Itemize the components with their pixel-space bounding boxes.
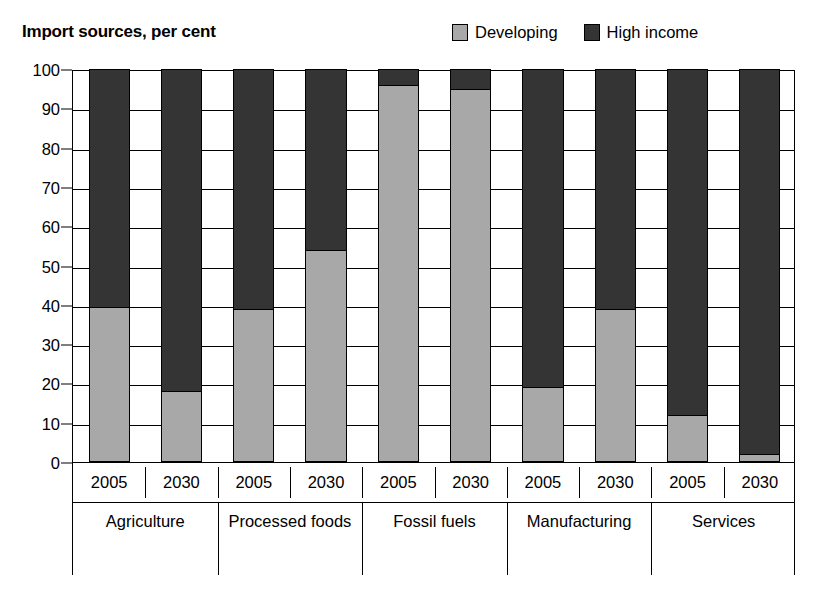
x-axis-year-cell: 2005	[507, 463, 579, 502]
y-axis-tick-label: 20	[42, 375, 60, 394]
y-axis-tick-label: 50	[42, 257, 60, 276]
x-axis-year-label: 2005	[669, 473, 706, 492]
cell-divider	[579, 467, 580, 498]
y-axis-tick-mark	[61, 187, 72, 188]
x-axis-year-cell: 2005	[73, 463, 145, 502]
bar-segment[interactable]	[378, 69, 419, 85]
y-axis-tick-label: 40	[42, 296, 60, 315]
stacked-bar[interactable]	[378, 69, 418, 462]
x-axis-year-label: 2030	[452, 473, 489, 492]
stacked-bar[interactable]	[451, 69, 491, 462]
y-axis-tick-mark	[61, 345, 72, 346]
bar-segment[interactable]	[522, 387, 563, 462]
legend-label: High income	[607, 23, 699, 42]
bar-segment[interactable]	[450, 69, 491, 89]
stacked-bar[interactable]	[89, 69, 129, 462]
x-axis-year-cell: 2005	[218, 463, 290, 502]
y-axis-tick-mark	[61, 70, 72, 71]
cell-divider	[218, 503, 219, 575]
bar-segment[interactable]	[233, 309, 274, 462]
x-axis-year-label: 2005	[525, 473, 562, 492]
x-axis-group-cell: Manufacturing	[507, 503, 652, 575]
developing-swatch	[452, 24, 468, 41]
y-axis-tick-label: 100	[32, 61, 60, 80]
bar-segment[interactable]	[161, 69, 202, 391]
stacked-bar[interactable]	[161, 69, 201, 462]
y-axis-tick-mark	[61, 384, 72, 385]
x-axis-year-label: 2030	[597, 473, 634, 492]
stacked-bar[interactable]	[306, 69, 346, 462]
legend-item[interactable]: Developing	[452, 23, 558, 42]
x-axis-group-label: Agriculture	[106, 511, 185, 533]
x-axis-year-cell: 2005	[651, 463, 723, 502]
y-axis-tick-mark	[61, 463, 72, 464]
y-axis-tick-label: 10	[42, 414, 60, 433]
cell-divider	[290, 467, 291, 498]
y-axis-tick-label: 90	[42, 100, 60, 119]
y-axis-tick-mark	[61, 266, 72, 267]
stacked-bar[interactable]	[234, 69, 274, 462]
bar-series	[73, 71, 794, 462]
x-axis-year-label: 2005	[91, 473, 128, 492]
y-axis-tick-mark	[61, 148, 72, 149]
legend-item[interactable]: High income	[584, 23, 699, 42]
x-axis-year-label: 2030	[163, 473, 200, 492]
bar-segment[interactable]	[595, 69, 636, 309]
stacked-bar[interactable]	[668, 69, 708, 462]
bar-segment[interactable]	[89, 69, 130, 307]
cell-divider	[507, 503, 508, 575]
y-axis: 0102030405060708090100	[0, 70, 72, 463]
x-axis-year-cell: 2030	[724, 463, 796, 502]
bar-segment[interactable]	[522, 69, 563, 387]
chart-header: Import sources, per cent DevelopingHigh …	[0, 22, 823, 48]
y-axis-tick-mark	[61, 227, 72, 228]
bar-segment[interactable]	[450, 89, 491, 462]
y-axis-tick-mark	[61, 305, 72, 306]
high-income-swatch	[584, 24, 600, 41]
x-axis-year-row: 2005203020052030200520302005203020052030	[72, 463, 795, 503]
stacked-bar[interactable]	[595, 69, 635, 462]
x-axis-group-cell: Fossil fuels	[362, 503, 507, 575]
x-axis-group-cell: Services	[651, 503, 796, 575]
page-title: Import sources, per cent	[22, 22, 216, 42]
bar-segment[interactable]	[595, 309, 636, 462]
bar-segment[interactable]	[378, 85, 419, 462]
x-axis-year-cell: 2005	[362, 463, 434, 502]
x-axis-year-label: 2005	[380, 473, 417, 492]
x-axis-group-label: Manufacturing	[527, 511, 632, 533]
y-axis-tick-label: 30	[42, 336, 60, 355]
cell-divider	[362, 503, 363, 575]
x-axis-year-label: 2005	[235, 473, 272, 492]
cell-divider	[507, 467, 508, 498]
cell-divider	[651, 467, 652, 498]
cell-divider	[218, 467, 219, 498]
x-axis-year-label: 2030	[308, 473, 345, 492]
bar-segment[interactable]	[305, 69, 346, 250]
x-axis-year-cell: 2030	[145, 463, 217, 502]
bar-segment[interactable]	[233, 69, 274, 309]
x-axis-year-cell: 2030	[579, 463, 651, 502]
cell-divider	[651, 503, 652, 575]
bar-segment[interactable]	[161, 391, 202, 462]
x-axis-group-label: Processed foods	[228, 511, 351, 533]
x-axis-year-cell: 2030	[290, 463, 362, 502]
plot-area	[72, 70, 795, 463]
cell-divider	[724, 467, 725, 498]
bar-segment[interactable]	[305, 250, 346, 462]
x-axis-year-cell: 2030	[435, 463, 507, 502]
bar-segment[interactable]	[667, 415, 708, 462]
y-axis-tick-mark	[61, 423, 72, 424]
bar-segment[interactable]	[739, 454, 780, 462]
bar-segment[interactable]	[667, 69, 708, 415]
x-axis-group-label: Fossil fuels	[393, 511, 476, 533]
stacked-bar[interactable]	[523, 69, 563, 462]
x-axis-group-row: AgricultureProcessed foodsFossil fuelsMa…	[72, 503, 795, 575]
stacked-bar[interactable]	[740, 69, 780, 462]
x-axis: 2005203020052030200520302005203020052030…	[72, 463, 795, 575]
bar-segment[interactable]	[89, 307, 130, 462]
y-axis-tick-label: 80	[42, 139, 60, 158]
bar-segment[interactable]	[739, 69, 780, 454]
x-axis-group-cell: Processed foods	[218, 503, 363, 575]
cell-divider	[435, 467, 436, 498]
chart-container: Import sources, per cent DevelopingHigh …	[0, 0, 823, 600]
